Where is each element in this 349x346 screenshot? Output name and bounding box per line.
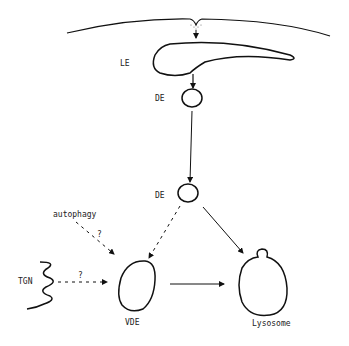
label-tgn: TGN [18,278,32,286]
plasma-membrane [67,19,330,36]
vde-shape [119,261,155,311]
label-de1: DE [155,95,165,103]
label-de2: DE [155,192,165,200]
diagram-graphics [0,0,349,346]
lysosome-shape [239,249,287,315]
le-shape [153,42,294,75]
label-autophagy: autophagy [53,211,96,219]
endocytic-pathway-diagram: LE DE DE autophagy ? TGN ? VDE Lysosome [0,0,349,346]
arrow-de1-to-de2 [190,111,192,182]
arrow-de2-to-lysosome [203,207,243,253]
de2-shape [178,184,198,202]
label-autophagy-question: ? [97,231,102,239]
arrow-de2-to-vde [149,206,180,258]
label-lysosome: Lysosome [252,320,291,328]
arrow-autophagy-to-vde [76,222,114,254]
de1-shape [182,89,202,107]
label-vde: VDE [125,319,139,327]
label-le: LE [120,60,130,68]
label-tgn-question: ? [78,272,83,280]
